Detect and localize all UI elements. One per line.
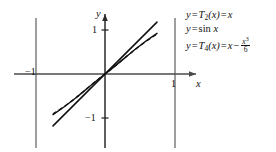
y-tick-label-minus-1: −1 — [85, 113, 96, 123]
legend-T4-equals-2: = — [220, 40, 228, 51]
legend: y=T2(x)=x y=sin x y=T4(x)=x−x36 — [186, 8, 276, 50]
y-tick-label-1: 1 — [92, 25, 97, 35]
legend-sin-expression: x — [213, 23, 218, 34]
legend-T2-argument: (x) — [208, 9, 220, 20]
legend-T2-expression: x — [228, 9, 233, 20]
x-tick-label-minus-1: −1 — [25, 67, 36, 77]
x-tick-label-1: 1 — [171, 79, 176, 89]
legend-sin-fn-name: sin — [199, 23, 211, 34]
legend-T2-equals-2: = — [220, 9, 228, 20]
legend-T4-equals-1: = — [191, 40, 199, 51]
legend-sin-equals: = — [191, 23, 199, 34]
legend-item-T4: y=T4(x)=x−x36 — [186, 36, 276, 50]
legend-T4-y: y — [186, 40, 191, 51]
y-axis-label: y — [96, 9, 101, 20]
taylor-sine-figure: y x 1 −1 1 −1 y=T2(x)=x y=sin x y=T4(x)=… — [0, 0, 276, 152]
legend-T4-minus-sign: − — [232, 40, 240, 51]
legend-T4-fraction: x36 — [241, 36, 249, 54]
legend-T4-argument: (x) — [208, 40, 220, 51]
legend-T2-equals-1: = — [191, 9, 199, 20]
legend-T4-numerator-exponent: 3 — [246, 36, 249, 42]
legend-T2-y: y — [186, 9, 191, 20]
legend-item-sin: y=sin x — [186, 22, 276, 36]
x-axis-label: x — [196, 79, 201, 90]
x-axis-arrowhead — [189, 71, 196, 77]
legend-T4-fraction-denominator: 6 — [241, 46, 249, 54]
legend-sin-y: y — [186, 23, 191, 34]
legend-item-T2: y=T2(x)=x — [186, 8, 276, 22]
y-axis-arrowhead — [102, 14, 108, 21]
